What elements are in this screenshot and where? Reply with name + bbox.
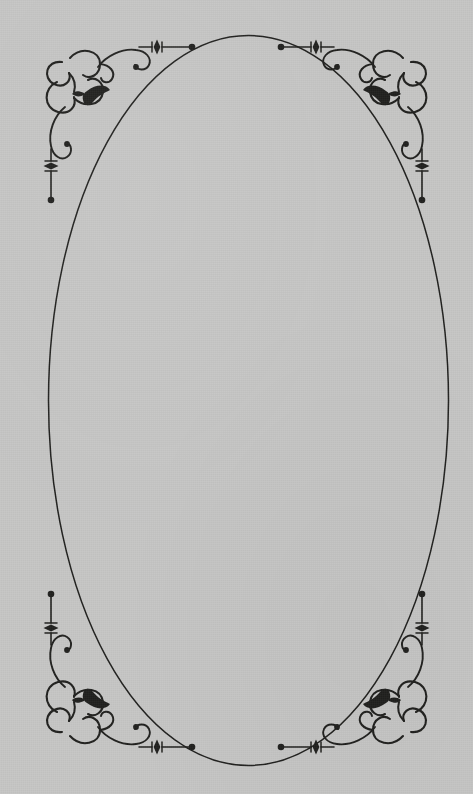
oval-frame bbox=[49, 36, 449, 766]
artwork-layer bbox=[0, 0, 473, 794]
corner-ornament-bottom-left bbox=[44, 591, 196, 755]
page-artwork bbox=[0, 0, 473, 794]
corner-ornament-bottom-right bbox=[278, 591, 430, 755]
ornamental-page bbox=[0, 0, 473, 794]
